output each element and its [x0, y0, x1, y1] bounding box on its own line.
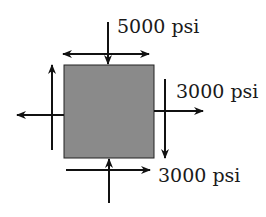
label-bottom-shear: 3000 psi — [158, 164, 240, 186]
stress-element-diagram: 5000 psi 3000 psi 3000 psi — [0, 0, 266, 217]
diagram-canvas: 5000 psi 3000 psi 3000 psi — [0, 0, 266, 217]
label-top-normal: 5000 psi — [117, 15, 199, 37]
label-right-shear: 3000 psi — [176, 80, 258, 102]
stress-element-square — [64, 65, 154, 158]
